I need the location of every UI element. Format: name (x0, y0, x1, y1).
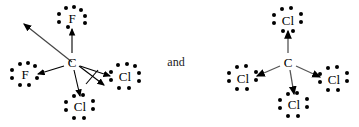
lewis-structure-figure: C F F Cl Cl and C Cl Cl Cl Cl (0, 0, 359, 127)
atom-label-f-top: F (68, 12, 75, 25)
atom-label-cl-bottom: Cl (74, 100, 86, 113)
atom-label-cl-top-r: Cl (282, 14, 294, 27)
atom-label-cl-left-r: Cl (237, 72, 249, 85)
conjunction-and: and (167, 55, 184, 70)
atom-label-c-right: C (284, 56, 293, 69)
atom-label-cl-right: Cl (119, 70, 131, 83)
atom-label-f-left: F (21, 68, 28, 81)
atom-label-c-left: C (68, 56, 77, 69)
atom-label-cl-bottom-r: Cl (288, 98, 300, 111)
atom-label-cl-right-r: Cl (328, 73, 340, 86)
